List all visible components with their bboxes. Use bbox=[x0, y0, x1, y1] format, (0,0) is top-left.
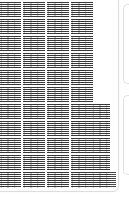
text-block-r4-c1 bbox=[23, 70, 45, 85]
text-block-r5-c1 bbox=[23, 87, 45, 102]
text-block-r9-c2 bbox=[47, 155, 69, 170]
text-block-r8-c4 bbox=[92, 138, 110, 153]
text-block-r8-c3 bbox=[71, 138, 93, 153]
text-block-r0-c1 bbox=[23, 2, 45, 17]
text-block-r3-c0 bbox=[0, 53, 21, 68]
text-block-r4-c3 bbox=[71, 70, 93, 85]
text-block-r10-c2 bbox=[47, 172, 69, 188]
text-block-r0-c3 bbox=[71, 2, 93, 17]
text-block-r9-c4 bbox=[92, 155, 110, 170]
text-block-r9-c3 bbox=[71, 155, 93, 170]
text-block-r2-c2 bbox=[47, 36, 69, 51]
text-block-r10-c4 bbox=[92, 172, 110, 188]
text-block-r7-c3 bbox=[71, 121, 93, 136]
text-block-r5-c3 bbox=[71, 87, 93, 102]
text-block-r9-c1 bbox=[23, 155, 45, 170]
text-block-r2-c1 bbox=[23, 36, 45, 51]
text-block-r10-c3 bbox=[71, 172, 93, 188]
text-block-r6-c1 bbox=[23, 104, 45, 119]
thumbnail-viewport bbox=[0, 0, 129, 198]
page-content-grid bbox=[0, 0, 129, 198]
text-block-r8-c1 bbox=[23, 138, 45, 153]
text-block-r10-c5 bbox=[110, 172, 116, 188]
text-block-r9-c0 bbox=[0, 155, 21, 170]
text-block-r6-c4 bbox=[92, 104, 110, 119]
text-block-r8-c0 bbox=[0, 138, 21, 153]
text-block-r5-c2 bbox=[47, 87, 69, 102]
text-block-r7-c2 bbox=[47, 121, 69, 136]
text-block-r10-c0 bbox=[0, 172, 21, 188]
text-block-r4-c0 bbox=[0, 70, 21, 85]
text-block-r7-c1 bbox=[23, 121, 45, 136]
text-block-r3-c1 bbox=[23, 53, 45, 68]
text-block-r8-c2 bbox=[47, 138, 69, 153]
text-block-r0-c0 bbox=[0, 2, 21, 17]
text-block-r0-c2 bbox=[47, 2, 69, 17]
text-block-r1-c3 bbox=[71, 19, 93, 34]
text-block-r6-c3 bbox=[71, 104, 93, 119]
text-block-r7-c4 bbox=[92, 121, 110, 136]
text-block-r2-c0 bbox=[0, 36, 21, 51]
text-block-r7-c0 bbox=[0, 121, 21, 136]
text-block-r6-c2 bbox=[47, 104, 69, 119]
text-block-r2-c3 bbox=[71, 36, 93, 51]
text-block-r1-c0 bbox=[0, 19, 21, 34]
text-block-r3-c2 bbox=[47, 53, 69, 68]
text-block-r1-c2 bbox=[47, 19, 69, 34]
text-block-r10-c1 bbox=[23, 172, 45, 188]
text-block-r4-c2 bbox=[47, 70, 69, 85]
text-block-r1-c1 bbox=[23, 19, 45, 34]
text-block-r6-c0 bbox=[0, 104, 21, 119]
text-block-r3-c3 bbox=[71, 53, 93, 68]
text-block-r5-c0 bbox=[0, 87, 21, 102]
